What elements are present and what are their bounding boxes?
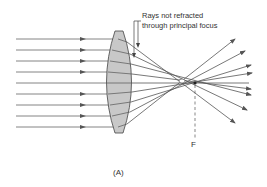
refracted-ray: [131, 65, 251, 102]
arrow-icon: [80, 114, 86, 118]
crossing-point: [179, 79, 185, 83]
refracted-ray: [130, 54, 247, 110]
ray-diagram-svg: [0, 0, 267, 187]
arrow-icon: [80, 92, 86, 96]
bracket-arrow-icon: [136, 43, 140, 48]
focal-point: [193, 81, 196, 84]
incoming-rays: [16, 39, 118, 127]
refracted-rays: [127, 39, 252, 124]
arrow-icon: [80, 37, 86, 41]
caption-bracket: [134, 21, 141, 56]
arrow-icon: [80, 70, 86, 74]
convex-lens: [107, 31, 132, 133]
arrow-icon: [80, 125, 86, 129]
focus-label: F: [191, 140, 196, 149]
refracted-ray: [130, 51, 245, 112]
arrow-icon: [80, 48, 86, 52]
arrow-icon: [80, 59, 86, 63]
caption-annotation: Rays not refracted through principal foc…: [142, 11, 217, 31]
refracted-ray: [132, 73, 252, 92]
caption-line-1: Rays not refracted: [142, 11, 217, 21]
panel-label: (A): [113, 168, 124, 177]
caption-line-2: through principal focus: [142, 21, 217, 31]
arrow-icon: [80, 103, 86, 107]
